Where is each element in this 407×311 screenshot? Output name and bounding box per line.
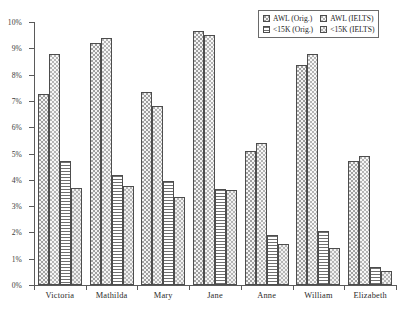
- bar: [174, 197, 185, 285]
- bar: [101, 38, 112, 285]
- bar-group: [344, 22, 396, 285]
- y-axis-tick-label: 3%: [12, 202, 22, 211]
- x-axis-tick-label: Mathilda: [96, 291, 128, 300]
- bar-group-bars: [137, 22, 189, 285]
- bar: [267, 235, 278, 285]
- bar: [60, 161, 71, 285]
- x-axis-tick: [396, 285, 397, 290]
- x-axis-tick: [189, 285, 190, 290]
- bar: [112, 175, 123, 285]
- bar: [163, 181, 174, 285]
- y-axis-tick-label: 1%: [12, 254, 22, 263]
- bar: [193, 31, 204, 285]
- legend-label: AWL (IELTS): [330, 14, 373, 23]
- bar: [245, 151, 256, 285]
- legend-item-awl-ielts: AWL (IELTS): [320, 14, 374, 23]
- x-axis-tick: [34, 285, 35, 290]
- x-axis-tick: [344, 285, 345, 290]
- bar-group-bars: [344, 22, 396, 285]
- x-axis-tick-label: William: [304, 291, 333, 300]
- bar-group: [137, 22, 189, 285]
- bar: [381, 271, 392, 285]
- bar: [256, 143, 267, 285]
- chart-legend: AWL (Orig.) AWL (IELTS) <15K (Orig.) <15…: [258, 10, 379, 38]
- y-axis-tick-label: 10%: [8, 18, 22, 27]
- y-axis-tick-label: 7%: [12, 96, 22, 105]
- bar: [49, 54, 60, 285]
- bar: [215, 189, 226, 285]
- bar-group-bars: [34, 22, 86, 285]
- x-axis-tick-label: Victoria: [46, 291, 75, 300]
- bar-group: [86, 22, 138, 285]
- legend-label: AWL (Orig.): [273, 14, 312, 23]
- y-axis-tick-label: 5%: [12, 149, 22, 158]
- x-axis-tick: [86, 285, 87, 290]
- bar-groups: [34, 22, 396, 285]
- bar: [318, 231, 329, 285]
- bar-group-bars: [293, 22, 345, 285]
- x-axis-tick-group: VictoriaMathildaMaryJaneAnneWilliamEliza…: [34, 291, 396, 307]
- y-axis-tick-label: 4%: [12, 175, 22, 184]
- legend-swatch-icon: [263, 26, 270, 33]
- legend-swatch-icon: [320, 26, 327, 33]
- bar: [329, 248, 340, 285]
- bar: [296, 65, 307, 285]
- bar-chart: 0%1%2%3%4%5%6%7%8%9%10% VictoriaMathilda…: [0, 0, 407, 311]
- y-axis-tick-label: 8%: [12, 70, 22, 79]
- x-axis-tick: [137, 285, 138, 290]
- legend-item-15k-orig: <15K (Orig.): [263, 25, 313, 34]
- bar-group: [293, 22, 345, 285]
- x-axis-tick: [293, 285, 294, 290]
- legend-label: <15K (IELTS): [330, 25, 374, 34]
- bar-group-bars: [86, 22, 138, 285]
- bar: [152, 106, 163, 285]
- x-axis-tick-label: Elizabeth: [353, 291, 386, 300]
- legend-item-15k-ielts: <15K (IELTS): [320, 25, 374, 34]
- legend-swatch-icon: [320, 15, 327, 22]
- x-axis-tick: [241, 285, 242, 290]
- x-axis-tick-label: Jane: [207, 291, 223, 300]
- y-axis-tick-label: 6%: [12, 123, 22, 132]
- bar-group-bars: [241, 22, 293, 285]
- legend-swatch-icon: [263, 15, 270, 22]
- bar-group: [34, 22, 86, 285]
- bar: [226, 190, 237, 285]
- y-axis-tick-label: 0%: [12, 281, 22, 290]
- bar: [307, 54, 318, 285]
- bar: [123, 186, 134, 285]
- bar-group-bars: [189, 22, 241, 285]
- x-axis-tick-label: Anne: [257, 291, 276, 300]
- bar: [348, 161, 359, 285]
- bar: [370, 267, 381, 285]
- bar-group: [189, 22, 241, 285]
- y-axis-tick-label: 2%: [12, 228, 22, 237]
- x-axis: [34, 285, 396, 286]
- y-axis-tick-label: 9%: [12, 44, 22, 53]
- bar: [204, 35, 215, 285]
- bar-group: [241, 22, 293, 285]
- x-axis-tick-label: Mary: [154, 291, 173, 300]
- bar: [90, 43, 101, 285]
- bar: [71, 188, 82, 285]
- bar: [141, 92, 152, 285]
- bar: [38, 94, 49, 285]
- legend-label: <15K (Orig.): [273, 25, 313, 34]
- legend-item-awl-orig: AWL (Orig.): [263, 14, 313, 23]
- bar: [278, 244, 289, 285]
- bar: [359, 156, 370, 285]
